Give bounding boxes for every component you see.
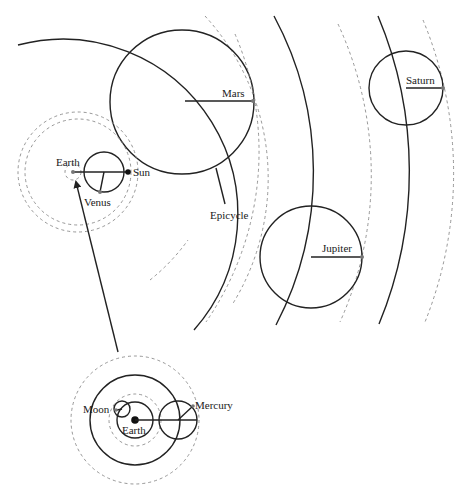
saturn-outer-dashed-arc [423,20,454,322]
inset-earth-system: Moon Earth Mercury [71,356,233,484]
jupiter-point [360,255,364,259]
saturn-label: Saturn [406,74,435,86]
venus-radius [100,172,104,192]
venus-point [98,190,102,194]
epicycle-label: Epicycle [210,209,249,221]
jupiter-inner-dashed-arc [206,34,259,322]
jupiter-deferent-arc [274,16,313,325]
sun-label: Sun [133,166,151,178]
inset-mercury-radius [178,406,193,420]
sun-point [125,169,131,175]
mars-label: Mars [222,87,245,99]
inset-mercury-label: Mercury [195,399,233,411]
saturn-point [441,86,445,90]
mars-deferent-arc [18,39,238,330]
inset-moon-point [114,408,118,412]
epicycle-pointer [216,168,225,204]
earth-point [71,170,75,174]
inset-moon-label: Moon [83,403,110,415]
saturn-deferent-arc [378,16,409,324]
mars-outer-dashed-arc [205,16,268,305]
venus-label: Venus [84,196,111,208]
mars-inner-dashed-arc [150,240,188,280]
jupiter-outer-dashed-arc [338,24,371,322]
inset-earth-label: Earth [122,424,146,436]
jupiter-label: Jupiter [322,242,352,254]
earth-label: Earth [56,156,80,168]
ptolemaic-diagram: Mars Epicycle Earth Sun Venus Jupiter Sa… [0,0,461,495]
